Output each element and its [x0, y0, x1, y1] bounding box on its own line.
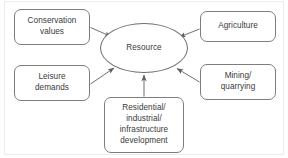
- node-leisure-demands[interactable]: Leisure demands: [14, 65, 90, 101]
- node-agriculture-label: Agriculture: [216, 21, 260, 32]
- node-leisure-demands-label: Leisure demands: [33, 72, 71, 94]
- node-residential-development[interactable]: Residential/ industrial/ infrastructure …: [104, 97, 184, 153]
- edge-leisure-to-resource: [91, 68, 115, 84]
- node-residential-development-label: Residential/ industrial/ infrastructure …: [118, 103, 170, 146]
- node-mining-quarrying[interactable]: Mining/ quarrying: [200, 64, 276, 100]
- node-resource-label: Resource: [124, 43, 163, 54]
- node-agriculture[interactable]: Agriculture: [200, 11, 276, 42]
- node-mining-quarrying-label: Mining/ quarrying: [219, 71, 258, 93]
- node-conservation-values[interactable]: Conservation values: [14, 9, 90, 45]
- node-resource[interactable]: Resource: [100, 23, 188, 73]
- node-conservation-values-label: Conservation values: [26, 16, 79, 38]
- concept-map-diagram: Resource Conservation values Agriculture…: [0, 0, 288, 158]
- edge-mining-to-resource: [177, 69, 200, 83]
